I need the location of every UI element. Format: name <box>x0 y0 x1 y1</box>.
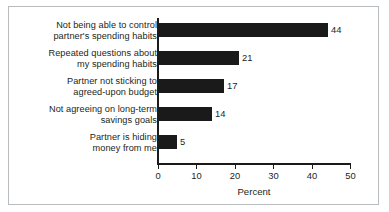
bar-4 <box>158 135 177 149</box>
x-tick-1 <box>196 164 197 169</box>
x-tick-5 <box>350 164 351 169</box>
bar-value-4: 5 <box>180 135 185 149</box>
x-tick-2 <box>235 164 236 169</box>
plot-area: Not being able to control partner's spen… <box>0 0 389 212</box>
x-ticklabel-3: 30 <box>259 170 289 181</box>
category-label-0: Not being able to control partner's spen… <box>53 20 157 41</box>
bar-value-0: 44 <box>331 23 341 37</box>
x-ticklabel-4: 40 <box>297 170 327 181</box>
bar-3 <box>158 107 212 121</box>
x-axis-line <box>157 163 351 165</box>
bar-value-1: 21 <box>242 51 252 65</box>
bar-1 <box>158 51 239 65</box>
category-label-3: Not agreeing on long-term savings goals <box>49 104 157 125</box>
x-tick-0 <box>158 164 159 169</box>
bar-2 <box>158 79 224 93</box>
category-label-4: Partner is hiding money from me <box>90 132 157 153</box>
x-ticklabel-1: 10 <box>182 170 212 181</box>
bar-value-2: 17 <box>227 79 237 93</box>
y-axis-line <box>157 18 159 164</box>
chart-figure: Not being able to control partner's spen… <box>0 0 389 212</box>
category-label-2: Partner not sticking to agreed-upon budg… <box>67 76 157 97</box>
x-axis-title: Percent <box>157 186 351 197</box>
category-label-1: Repeated questions about my spending hab… <box>49 48 157 69</box>
x-ticklabel-2: 20 <box>220 170 250 181</box>
x-ticklabel-5: 50 <box>336 170 366 181</box>
bar-value-3: 14 <box>215 107 225 121</box>
x-tick-4 <box>312 164 313 169</box>
x-tick-3 <box>273 164 274 169</box>
bar-0 <box>158 23 328 37</box>
x-ticklabel-0: 0 <box>143 170 173 181</box>
